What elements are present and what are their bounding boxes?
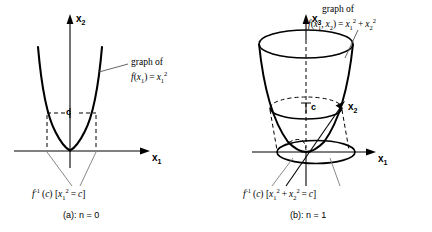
panel-a-graph-annotation-line2: f(x1) = x12 <box>131 71 167 85</box>
panel-b-levelset-label: f-1 (c) [x12 + x22 = c] <box>243 188 316 202</box>
panel-b-graph-annotation-line2: f(x1, x2) = x12 + x22 <box>308 18 376 32</box>
panel-a-graph-leader <box>99 64 128 72</box>
figure-container: x2 x1 c graph of f(x1) = x12 f-1 (c) [x1… <box>0 0 432 232</box>
panel-a-level-line <box>47 108 96 118</box>
panel-a-leader-lines <box>47 152 96 186</box>
panel-b-caption: (b): n = 1 <box>290 211 326 220</box>
panel-a-horizontal-axis-label: x1 <box>152 153 161 165</box>
panel-a-level-value-label: c <box>66 108 71 117</box>
panel-b-level-value-label: c <box>311 103 316 112</box>
panel-b-level-ellipse <box>270 97 342 119</box>
panel-b-graph-annotation-line1: graph of <box>322 5 354 15</box>
panel-a-caption: (a): n = 0 <box>63 211 99 220</box>
panel-a-levelset-label: f-1 (c) [x12 = c] <box>32 188 85 202</box>
panel-a-graph-annotation-line1: graph of <box>131 58 163 68</box>
panel-a-vertical-axis-label: x2 <box>76 14 85 26</box>
panel-a-horizontal-axis <box>14 148 150 155</box>
panel-b-depth-axis-label: x2 <box>348 102 357 114</box>
panel-b-horizontal-axis-label: x1 <box>378 154 387 166</box>
panel-a-vertical-axis <box>67 14 74 168</box>
